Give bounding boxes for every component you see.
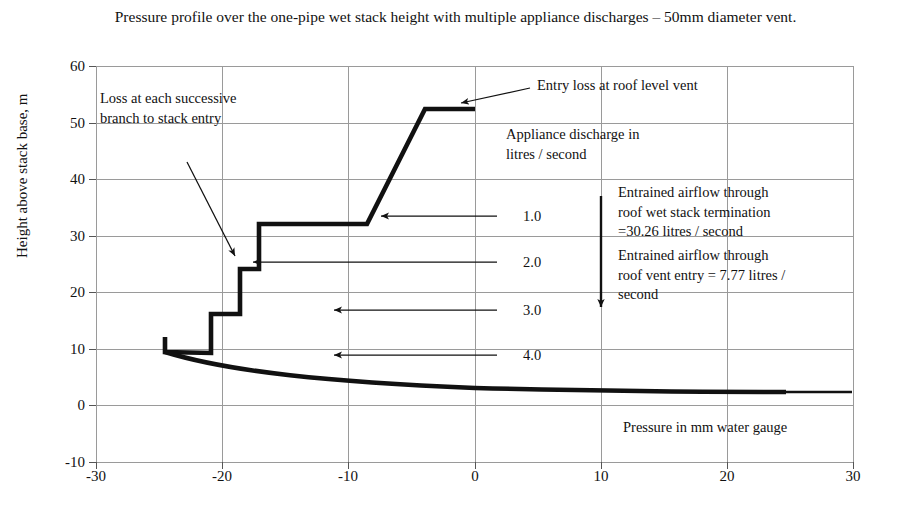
loss-at-branch-leader xyxy=(187,162,235,256)
x-axis-title: Pressure in mm water gauge xyxy=(623,418,787,438)
annotation-entry-loss: Entry loss at roof level vent xyxy=(537,76,698,96)
discharge-label-4: 4.0 xyxy=(523,347,541,364)
discharge-label-1: 1.0 xyxy=(523,208,541,225)
stack-base-recovery-curve xyxy=(165,352,786,392)
annotation-loss-at-branch: Loss at each successive branch to stack … xyxy=(100,89,237,128)
pressure-profile-curve xyxy=(165,109,475,353)
entry-loss-leader xyxy=(461,88,530,103)
chart-root: Pressure profile over the one-pipe wet s… xyxy=(0,0,911,525)
discharge-label-2: 2.0 xyxy=(523,254,541,271)
annotation-appliance-discharge-units: Appliance discharge in litres / second xyxy=(506,125,639,164)
annotation-entrained-airflow-vent-entry: Entrained airflow through roof vent entr… xyxy=(618,246,785,305)
annotation-entrained-airflow-termination: Entrained airflow through roof wet stack… xyxy=(618,183,771,242)
discharge-label-3: 3.0 xyxy=(523,302,541,319)
